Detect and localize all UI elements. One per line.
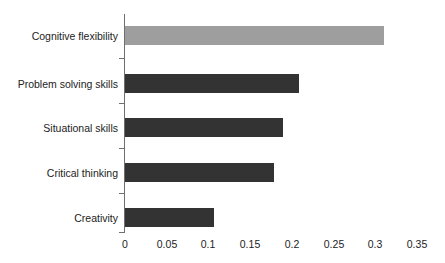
x-tick-label-0-1: 0.1 bbox=[201, 238, 216, 250]
x-tick-label-0-05: 0.05 bbox=[157, 238, 177, 250]
x-tick-label-0-35: 0.35 bbox=[407, 238, 427, 250]
bar-chart: Cognitive flexibility Problem solving sk… bbox=[0, 0, 445, 263]
bar-problem-solving-skills bbox=[125, 74, 299, 93]
category-label-problem-solving-skills: Problem solving skills bbox=[18, 78, 118, 90]
y-axis-tick bbox=[119, 58, 124, 59]
category-label-creativity: Creativity bbox=[74, 212, 118, 224]
x-axis-line bbox=[124, 232, 125, 233]
x-tick-label-0-3: 0.3 bbox=[368, 238, 383, 250]
category-label-cognitive-flexibility: Cognitive flexibility bbox=[32, 30, 118, 42]
y-axis-tick bbox=[119, 103, 124, 104]
bar-situational-skills bbox=[125, 118, 283, 137]
category-label-situational-skills: Situational skills bbox=[43, 122, 118, 134]
bar-critical-thinking bbox=[125, 163, 274, 182]
bar-cognitive-flexibility bbox=[125, 26, 384, 45]
x-tick-label-0-2: 0.2 bbox=[285, 238, 300, 250]
y-axis-tick bbox=[119, 232, 124, 233]
x-tick-label-0-25: 0.25 bbox=[324, 238, 344, 250]
x-tick-label-0: 0 bbox=[122, 238, 128, 250]
x-tick-label-0-15: 0.15 bbox=[240, 238, 260, 250]
category-label-critical-thinking: Critical thinking bbox=[47, 167, 118, 179]
y-axis-tick bbox=[119, 148, 124, 149]
bar-creativity bbox=[125, 208, 214, 227]
y-axis-tick bbox=[119, 193, 124, 194]
